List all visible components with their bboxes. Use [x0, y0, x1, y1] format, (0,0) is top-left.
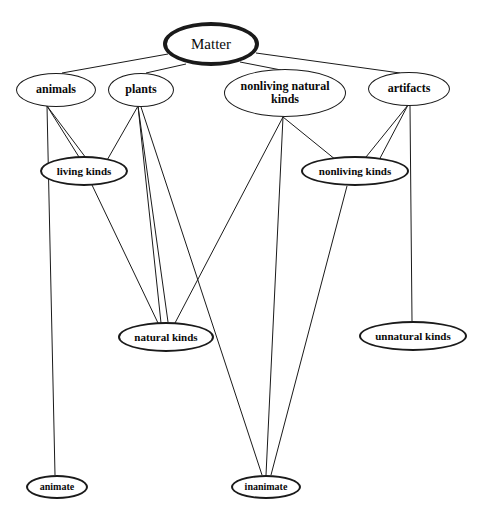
node-matter[interactable]: Matter: [163, 22, 259, 66]
node-nonliving-natural-kinds[interactable]: nonliving natural kinds: [224, 69, 346, 117]
node-label-nonliving-kinds: nonliving kinds: [315, 165, 395, 177]
node-label-unnatural-kinds: unnatural kinds: [371, 330, 455, 342]
node-living-kinds[interactable]: living kinds: [40, 156, 128, 186]
node-label-plants: plants: [121, 83, 160, 96]
node-nonliving-kinds[interactable]: nonliving kinds: [301, 156, 409, 186]
node-artifacts[interactable]: artifacts: [368, 72, 450, 106]
node-animate[interactable]: animate: [26, 475, 88, 499]
node-label-animate: animate: [36, 481, 78, 492]
node-label-living-kinds: living kinds: [53, 165, 116, 177]
node-label-inanimate: inanimate: [241, 481, 292, 492]
node-inanimate[interactable]: inanimate: [231, 475, 301, 499]
node-label-matter: Matter: [187, 36, 235, 53]
node-natural-kinds[interactable]: natural kinds: [118, 322, 214, 352]
node-label-natural-kinds: natural kinds: [130, 331, 201, 343]
node-animals[interactable]: animals: [16, 73, 96, 107]
node-label-artifacts: artifacts: [384, 82, 435, 95]
diagram-canvas: Matteranimalsplantsnonliving natural kin…: [0, 0, 487, 519]
node-label-animals: animals: [32, 83, 80, 96]
node-unnatural-kinds[interactable]: unnatural kinds: [359, 321, 467, 351]
node-plants[interactable]: plants: [108, 73, 174, 107]
node-label-nonliving-natural-kinds: nonliving natural kinds: [225, 80, 345, 107]
node-layer: Matteranimalsplantsnonliving natural kin…: [0, 0, 487, 519]
